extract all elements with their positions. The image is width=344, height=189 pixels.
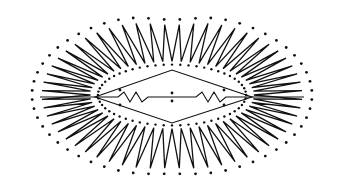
pattern-canvas: Lip-shaped stitching pattern: outer zigz… [0,0,344,189]
zigzag-fringe [42,23,302,168]
figure-description: Lip-shaped stitching pattern: outer zigz… [0,188,68,189]
lip-stitch-pattern-drawing [0,0,344,189]
